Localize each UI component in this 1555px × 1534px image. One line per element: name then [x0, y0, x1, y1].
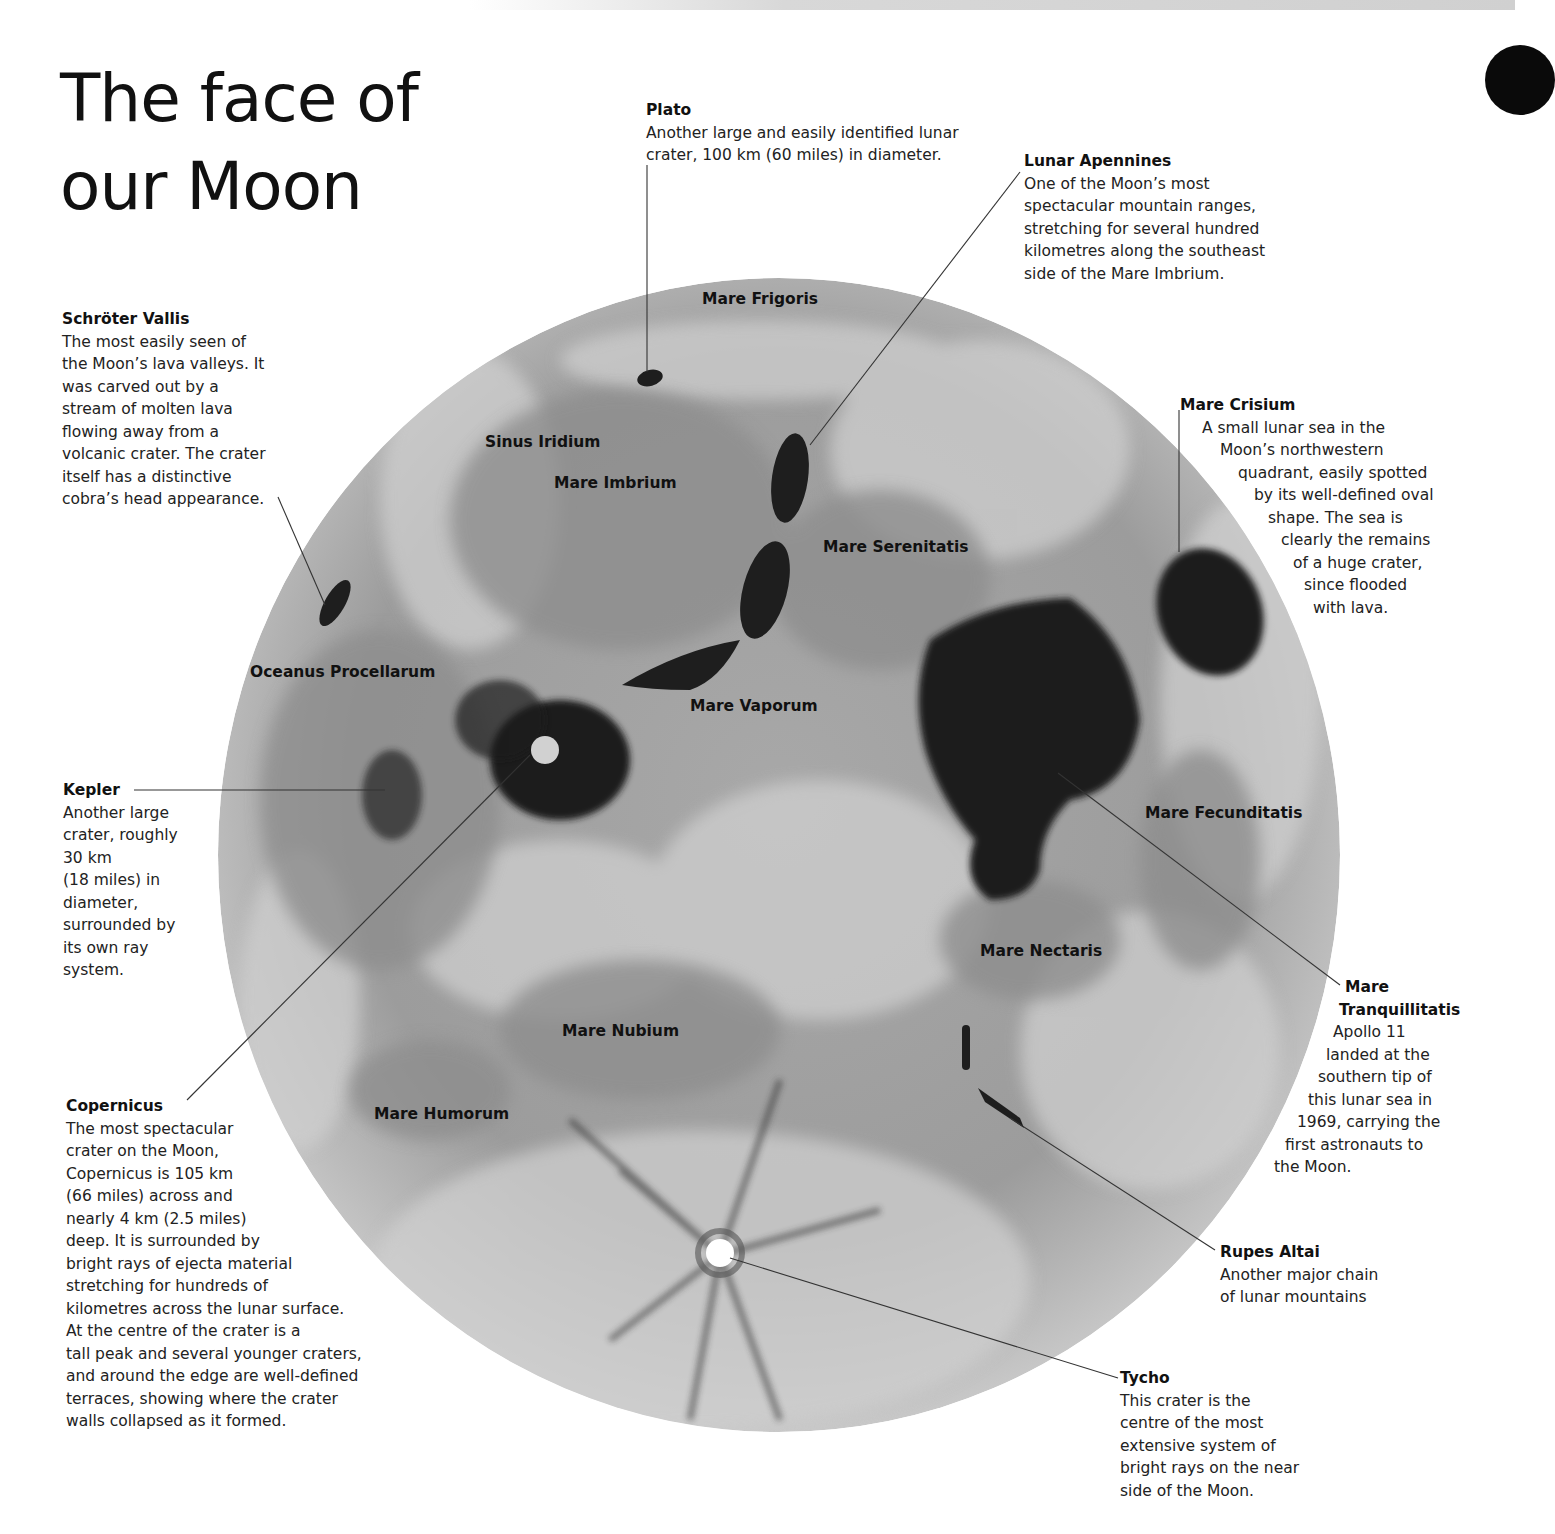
annotation-line: this lunar sea in: [1308, 1089, 1470, 1112]
annotation-plato: Plato Another large and easily identifie…: [646, 99, 1006, 167]
annotation-heading: Tycho: [1120, 1367, 1330, 1390]
annotation-copernicus: Copernicus The most spectacular crater o…: [66, 1095, 396, 1433]
annotation-line: by its well-defined oval: [1254, 484, 1480, 507]
annotation-line: quadrant, easily spotted: [1238, 462, 1480, 485]
annotation-body: Another major chain of lunar mountains: [1220, 1264, 1420, 1309]
annotation-mare-crisium: Mare Crisium A small lunar sea in the Mo…: [1180, 394, 1480, 619]
annotation-heading: Mare Crisium: [1180, 394, 1480, 417]
annotation-heading: Lunar Apennines: [1024, 150, 1324, 173]
annotation-line: southern tip of: [1318, 1066, 1470, 1089]
label-mare-serenitatis: Mare Serenitatis: [823, 538, 968, 556]
label-mare-vaporum: Mare Vaporum: [690, 697, 818, 715]
annotation-line: Moon’s northwestern: [1220, 439, 1480, 462]
label-mare-frigoris: Mare Frigoris: [702, 290, 818, 308]
annotation-line: shape. The sea is: [1268, 507, 1480, 530]
annotation-heading: Copernicus: [66, 1095, 396, 1118]
annotation-heading: Kepler: [63, 779, 203, 802]
annotation-kepler: Kepler Another large crater, roughly 30 …: [63, 779, 203, 982]
annotation-body: Another large crater, roughly 30 km (18 …: [63, 802, 203, 982]
annotation-body: Another large and easily identified luna…: [646, 122, 1006, 167]
label-sinus-iridium: Sinus Iridium: [485, 433, 601, 451]
annotation-body: The most easily seen of the Moon’s lava …: [62, 331, 302, 511]
annotation-heading: Schröter Vallis: [62, 308, 302, 331]
label-mare-nectaris: Mare Nectaris: [980, 942, 1102, 960]
annotation-line: since flooded: [1304, 574, 1480, 597]
annotation-body: The most spectacular crater on the Moon,…: [66, 1118, 396, 1433]
label-mare-fecunditatis: Mare Fecunditatis: [1145, 804, 1302, 822]
annotation-line: Apollo 11: [1333, 1021, 1470, 1044]
annotation-line: landed at the: [1326, 1044, 1470, 1067]
annotation-line: clearly the remains: [1281, 529, 1480, 552]
label-mare-imbrium: Mare Imbrium: [554, 474, 677, 492]
label-oceanus-procellarum: Oceanus Procellarum: [250, 663, 435, 681]
annotation-line: with lava.: [1313, 597, 1480, 620]
annotation-heading: Plato: [646, 99, 1006, 122]
annotation-tycho: Tycho This crater is the centre of the m…: [1120, 1367, 1330, 1502]
annotation-schroter-vallis: Schröter Vallis The most easily seen of …: [62, 308, 302, 511]
annotation-heading: Mare: [1345, 976, 1470, 999]
annotation-line: of a huge crater,: [1293, 552, 1480, 575]
annotation-line: A small lunar sea in the: [1202, 417, 1480, 440]
annotation-body: This crater is the centre of the most ex…: [1120, 1390, 1330, 1503]
annotation-lunar-apennines: Lunar Apennines One of the Moon’s most s…: [1024, 150, 1324, 285]
annotation-line: 1969, carrying the: [1297, 1111, 1470, 1134]
annotation-mare-tranquillitatis: Mare Tranquillitatis Apollo 11 landed at…: [1270, 976, 1470, 1179]
annotation-body: One of the Moon’s most spectacular mount…: [1024, 173, 1324, 286]
annotation-line: first astronauts to: [1285, 1134, 1470, 1157]
annotation-heading: Tranquillitatis: [1339, 999, 1470, 1022]
annotation-rupes-altai: Rupes Altai Another major chain of lunar…: [1220, 1241, 1420, 1309]
label-mare-nubium: Mare Nubium: [562, 1022, 679, 1040]
annotation-line: the Moon.: [1274, 1156, 1470, 1179]
annotation-heading: Rupes Altai: [1220, 1241, 1420, 1264]
